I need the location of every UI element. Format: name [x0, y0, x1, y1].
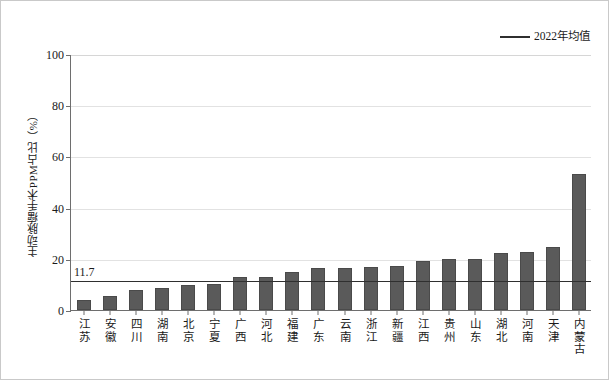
x-axis-label: 宁夏	[208, 318, 220, 343]
legend-label-average: 2022年均值	[534, 31, 590, 43]
bar[interactable]	[259, 277, 273, 310]
bar[interactable]	[129, 290, 143, 310]
x-tick-mark	[526, 310, 527, 315]
bar[interactable]	[77, 300, 91, 310]
legend-line-swatch	[500, 36, 530, 38]
bar-slot: 新疆	[384, 55, 410, 310]
bar-group: 江苏安徽四川湖南北京宁夏广西河北福建广东云南浙江新疆江西贵州山东湖北河南天津内蒙…	[71, 55, 591, 310]
x-tick-mark	[578, 310, 579, 315]
bar-slot: 广东	[305, 55, 331, 310]
x-axis-label: 江苏	[78, 318, 90, 343]
bar-slot: 河北	[253, 55, 279, 310]
x-tick-mark	[396, 310, 397, 315]
x-tick-mark	[266, 310, 267, 315]
x-tick-mark	[162, 310, 163, 315]
x-tick-mark	[110, 310, 111, 315]
x-tick-mark	[318, 310, 319, 315]
bar-slot: 江西	[410, 55, 436, 310]
x-tick-mark	[84, 310, 85, 315]
x-axis-label: 广西	[234, 318, 246, 343]
x-tick-mark	[370, 310, 371, 315]
x-tick-mark	[448, 310, 449, 315]
bar[interactable]	[181, 285, 195, 310]
bar[interactable]	[338, 268, 352, 310]
y-tick-mark-0	[66, 311, 71, 312]
x-axis-label: 天津	[547, 318, 559, 343]
x-axis-label: 江西	[417, 318, 429, 343]
x-axis-label: 内蒙古	[573, 318, 585, 356]
bar[interactable]	[572, 174, 586, 310]
bar-slot: 天津	[540, 55, 566, 310]
x-tick-mark	[292, 310, 293, 315]
bar[interactable]	[207, 284, 221, 310]
bar-slot: 湖北	[488, 55, 514, 310]
x-axis-label: 贵州	[443, 318, 455, 343]
bar[interactable]	[416, 261, 430, 310]
bar[interactable]	[155, 288, 169, 310]
x-axis-label: 安徽	[104, 318, 116, 343]
x-axis-label: 福建	[286, 318, 298, 343]
chart-figure: 2022年均值 主动脉瘤手术PPM占比（%） 020406080100 江苏安徽…	[0, 0, 609, 380]
x-axis-label: 河北	[260, 318, 272, 343]
y-axis-title: 主动脉瘤手术PPM占比（%）	[24, 55, 42, 311]
x-axis-label: 云南	[338, 318, 350, 343]
average-value-label: 11.7	[74, 265, 95, 280]
bar[interactable]	[546, 247, 560, 310]
bar[interactable]	[103, 296, 117, 310]
bar[interactable]	[233, 277, 247, 310]
x-tick-mark	[240, 310, 241, 315]
bar-slot: 四川	[123, 55, 149, 310]
bar[interactable]	[311, 268, 325, 310]
plot-area: 020406080100 江苏安徽四川湖南北京宁夏广西河北福建广东云南浙江新疆江…	[70, 55, 591, 311]
x-tick-mark	[552, 310, 553, 315]
bar[interactable]	[390, 266, 404, 310]
bar-slot: 福建	[279, 55, 305, 310]
bar-slot: 湖南	[149, 55, 175, 310]
x-tick-mark	[136, 310, 137, 315]
x-axis-label: 山东	[469, 318, 481, 343]
x-tick-mark	[188, 310, 189, 315]
bar[interactable]	[364, 267, 378, 310]
x-axis-label: 浙江	[365, 318, 377, 343]
x-tick-mark	[344, 310, 345, 315]
bar-slot: 北京	[175, 55, 201, 310]
x-tick-mark	[214, 310, 215, 315]
bar-slot: 内蒙古	[566, 55, 592, 310]
bar[interactable]	[285, 272, 299, 310]
average-reference-line	[71, 281, 591, 282]
x-axis-label: 广东	[312, 318, 324, 343]
bar-slot: 山东	[462, 55, 488, 310]
x-axis-label: 四川	[130, 318, 142, 343]
bar[interactable]	[468, 259, 482, 310]
bar-slot: 宁夏	[201, 55, 227, 310]
x-axis-label: 湖南	[156, 318, 168, 343]
y-axis-title-text: 主动脉瘤手术PPM占比（%）	[25, 109, 41, 257]
bar[interactable]	[442, 259, 456, 310]
x-tick-mark	[474, 310, 475, 315]
x-axis-label: 北京	[182, 318, 194, 343]
bar-slot: 云南	[332, 55, 358, 310]
bar-slot: 河南	[514, 55, 540, 310]
bar-slot: 浙江	[358, 55, 384, 310]
x-axis-label: 河南	[521, 318, 533, 343]
x-axis-label: 新疆	[391, 318, 403, 343]
x-axis-label: 湖北	[495, 318, 507, 343]
bar-slot: 贵州	[436, 55, 462, 310]
x-tick-mark	[422, 310, 423, 315]
chart-legend: 2022年均值	[500, 31, 590, 43]
bar-slot: 广西	[227, 55, 253, 310]
x-tick-mark	[500, 310, 501, 315]
bar-slot: 安徽	[97, 55, 123, 310]
